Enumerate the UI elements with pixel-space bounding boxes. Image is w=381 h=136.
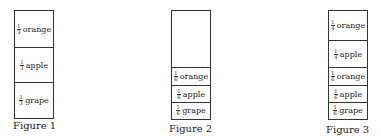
cell-label: grape <box>25 96 49 105</box>
fraction: 16 <box>334 89 338 100</box>
fraction: 13 <box>20 60 24 71</box>
figure-3-box: 14 orange 14 apple 16 orange 16 apple 16… <box>328 10 368 120</box>
figure-3-caption: Figure 3 <box>326 124 369 135</box>
cell-orange: 16 orange <box>172 67 210 85</box>
cell-label: orange <box>337 21 365 30</box>
cell-label: apple <box>340 90 362 99</box>
cell-label: apple <box>340 50 362 59</box>
figure-1-box: 13 orange 13 apple 13 grape <box>14 10 54 119</box>
cell-label: apple <box>26 61 48 70</box>
cell-empty <box>172 11 210 67</box>
cell-label: orange <box>180 72 208 81</box>
cell-label: apple <box>183 90 205 99</box>
cell-apple: 13 apple <box>15 47 53 82</box>
figure-1-caption: Figure 1 <box>13 120 56 131</box>
cell-grape: 16 grape <box>172 102 210 118</box>
fraction: 16 <box>331 71 335 82</box>
fraction: 14 <box>331 20 335 31</box>
fraction: 16 <box>333 105 337 116</box>
fraction: 16 <box>176 105 180 116</box>
figure-2-box: 16 orange 16 apple 16 grape <box>171 10 211 120</box>
cell-orange-quarter: 14 orange <box>329 11 367 40</box>
fraction: 14 <box>334 49 338 60</box>
cell-apple: 16 apple <box>172 85 210 102</box>
cell-grape-sixth: 16 grape <box>329 102 367 118</box>
cell-orange: 13 orange <box>15 11 53 47</box>
fraction: 13 <box>19 95 23 106</box>
fraction: 16 <box>174 71 178 82</box>
fraction: 13 <box>17 24 21 35</box>
cell-grape: 13 grape <box>15 82 53 117</box>
figure-2-caption: Figure 2 <box>169 123 212 134</box>
cell-label: grape <box>182 106 206 115</box>
cell-apple-quarter: 14 apple <box>329 40 367 67</box>
cell-apple-sixth: 16 apple <box>329 85 367 102</box>
cell-label: grape <box>339 106 363 115</box>
fraction: 16 <box>177 89 181 100</box>
cell-orange-sixth: 16 orange <box>329 67 367 85</box>
cell-label: orange <box>337 72 365 81</box>
cell-label: orange <box>23 25 51 34</box>
